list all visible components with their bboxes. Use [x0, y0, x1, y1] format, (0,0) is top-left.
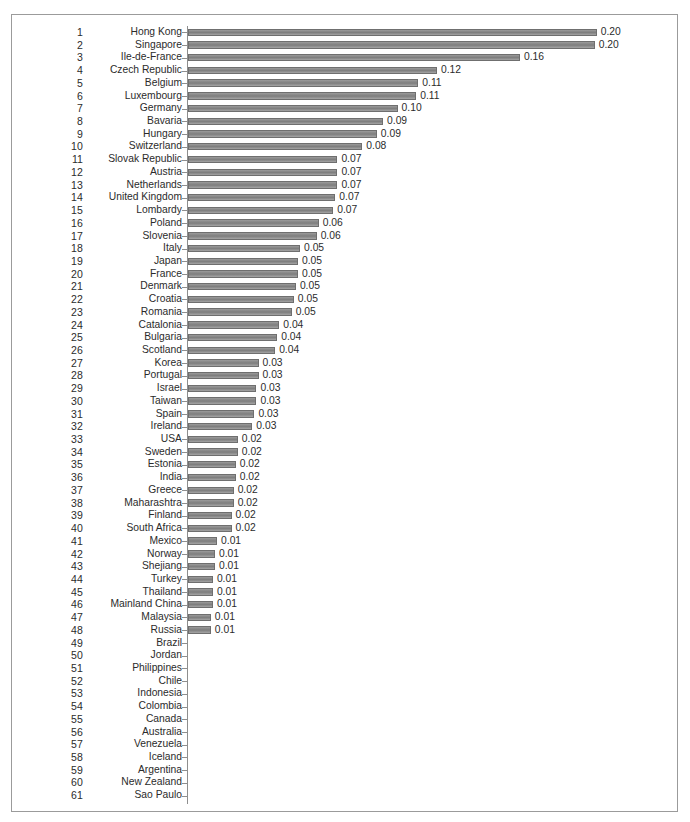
table-row: 54Colombia: [12, 700, 679, 713]
axis-tick: [182, 261, 187, 262]
row-rank: 35: [57, 458, 83, 471]
bar: [188, 118, 383, 125]
bar-value-label: 0.16: [524, 51, 544, 64]
category-label: Greece: [86, 484, 182, 497]
row-rank: 51: [57, 662, 83, 675]
bar-value-label: 0.02: [240, 471, 260, 484]
axis-tick: [182, 681, 187, 682]
bar: [188, 474, 236, 481]
table-row: 27Korea0.03: [12, 357, 679, 370]
axis-tick: [182, 160, 187, 161]
bar-value-label: 0.01: [217, 598, 237, 611]
bar: [188, 308, 292, 315]
row-rank: 46: [57, 598, 83, 611]
row-rank: 17: [57, 230, 83, 243]
row-rank: 61: [57, 789, 83, 802]
category-label: Estonia: [86, 458, 182, 471]
bar-value-label: 0.06: [323, 217, 343, 230]
axis-tick: [182, 71, 187, 72]
bar: [188, 143, 362, 150]
axis-tick: [182, 630, 187, 631]
bar: [188, 41, 595, 48]
row-rank: 15: [57, 204, 83, 217]
axis-tick: [182, 465, 187, 466]
row-rank: 14: [57, 191, 83, 204]
row-rank: 37: [57, 484, 83, 497]
table-row: 40South Africa0.02: [12, 522, 679, 535]
row-rank: 26: [57, 344, 83, 357]
row-rank: 1: [57, 26, 83, 39]
row-rank: 31: [57, 408, 83, 421]
bar-value-label: 0.05: [302, 268, 322, 281]
row-rank: 50: [57, 649, 83, 662]
table-row: 17Slovenia0.06: [12, 230, 679, 243]
row-rank: 6: [57, 90, 83, 103]
axis-tick: [182, 643, 187, 644]
axis-tick: [182, 732, 187, 733]
category-label: Korea: [86, 357, 182, 370]
axis-tick: [182, 389, 187, 390]
table-row: 14United Kingdom0.07: [12, 191, 679, 204]
category-label: Brazil: [86, 637, 182, 650]
table-row: 61Sao Paulo: [12, 789, 679, 802]
axis-tick: [182, 274, 187, 275]
table-row: 2Singapore0.20: [12, 39, 679, 52]
category-label: Mainland China: [86, 598, 182, 611]
bar: [188, 423, 252, 430]
chart-page: 1Hong Kong0.202Singapore0.203Ile-de-Fran…: [0, 0, 690, 822]
bar-value-label: 0.02: [238, 484, 258, 497]
axis-tick: [182, 427, 187, 428]
bar: [188, 436, 238, 443]
bar: [188, 563, 215, 570]
row-rank: 28: [57, 369, 83, 382]
category-label: Shejiang: [86, 560, 182, 573]
row-rank: 29: [57, 382, 83, 395]
bar: [188, 207, 333, 214]
category-label: Maharashtra: [86, 497, 182, 510]
bar: [188, 296, 294, 303]
category-label: Romania: [86, 306, 182, 319]
row-rank: 32: [57, 420, 83, 433]
bar-value-label: 0.07: [341, 166, 361, 179]
axis-tick: [182, 58, 187, 59]
row-rank: 55: [57, 713, 83, 726]
table-row: 32Ireland0.03: [12, 420, 679, 433]
category-label: Poland: [86, 217, 182, 230]
table-row: 43Shejiang0.01: [12, 560, 679, 573]
axis-tick: [182, 707, 187, 708]
bar: [188, 410, 254, 417]
axis-tick: [182, 719, 187, 720]
category-label: India: [86, 471, 182, 484]
category-label: Iceland: [86, 751, 182, 764]
bar: [188, 334, 277, 341]
table-row: 5Belgium0.11: [12, 77, 679, 90]
axis-tick: [182, 299, 187, 300]
table-row: 6Luxembourg0.11: [12, 90, 679, 103]
bar-value-label: 0.04: [283, 319, 303, 332]
figure-frame: 1Hong Kong0.202Singapore0.203Ile-de-Fran…: [11, 14, 678, 812]
category-label: Philippines: [86, 662, 182, 675]
axis-tick: [182, 401, 187, 402]
bar: [188, 448, 238, 455]
row-rank: 24: [57, 319, 83, 332]
category-label: Argentina: [86, 764, 182, 777]
bar-value-label: 0.04: [281, 331, 301, 344]
axis-tick: [182, 567, 187, 568]
row-rank: 5: [57, 77, 83, 90]
row-rank: 18: [57, 242, 83, 255]
table-row: 3Ile-de-France0.16: [12, 51, 679, 64]
bar-value-label: 0.07: [337, 204, 357, 217]
bar: [188, 576, 213, 583]
category-label: Scotland: [86, 344, 182, 357]
table-row: 35Estonia0.02: [12, 458, 679, 471]
axis-tick: [182, 452, 187, 453]
row-rank: 49: [57, 637, 83, 650]
category-label: Singapore: [86, 39, 182, 52]
table-row: 7Germany0.10: [12, 102, 679, 115]
category-label: Indonesia: [86, 687, 182, 700]
row-rank: 38: [57, 497, 83, 510]
category-label: New Zealand: [86, 776, 182, 789]
table-row: 36India0.02: [12, 471, 679, 484]
table-row: 1Hong Kong0.20: [12, 26, 679, 39]
row-rank: 19: [57, 255, 83, 268]
